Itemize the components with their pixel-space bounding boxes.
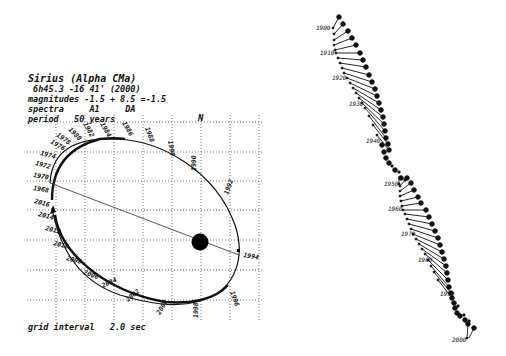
svg-text:1972: 1972 — [34, 159, 51, 171]
proper-motion-track — [332, 15, 476, 339]
svg-text:1986: 1986 — [120, 120, 135, 138]
svg-text:2000: 2000 — [452, 336, 467, 343]
svg-text:1998: 1998 — [192, 302, 200, 318]
svg-text:1990: 1990 — [190, 155, 198, 171]
line-of-apsides — [50, 183, 239, 255]
svg-text:1990: 1990 — [440, 290, 455, 297]
svg-text:2016: 2016 — [33, 197, 51, 209]
svg-text:1940: 1940 — [366, 137, 381, 144]
svg-text:1980: 1980 — [418, 256, 433, 263]
svg-text:1960: 1960 — [388, 205, 403, 212]
svg-text:1930: 1930 — [349, 100, 364, 107]
upper-arc-labels: 1968 1970 1972 1974 1976 1978 1980 1982 … — [33, 120, 260, 262]
svg-text:1974: 1974 — [39, 149, 56, 161]
orbit-diagram: N 1968 1970 1972 1974 1976 1978 1980 198… — [0, 0, 506, 356]
svg-text:1970: 1970 — [401, 230, 416, 237]
svg-text:1910: 1910 — [320, 49, 335, 56]
svg-text:2012: 2012 — [44, 224, 62, 236]
periastron-marker — [237, 249, 240, 252]
orbit-ellipse — [50, 138, 239, 304]
svg-text:1990: 1990 — [166, 140, 177, 157]
svg-text:1950: 1950 — [384, 180, 399, 187]
svg-text:1920: 1920 — [332, 74, 347, 81]
primary-star-sirius-a — [192, 234, 209, 251]
svg-text:2010: 2010 — [52, 239, 70, 251]
svg-text:2008: 2008 — [65, 254, 83, 266]
svg-text:1992: 1992 — [222, 178, 235, 196]
svg-text:1988: 1988 — [143, 126, 156, 144]
proper-motion-year-labels: 1900 1910 1920 1930 1940 1950 1960 1970 … — [316, 24, 467, 343]
svg-text:1900: 1900 — [316, 24, 331, 31]
svg-text:1984: 1984 — [98, 121, 113, 139]
svg-text:1968: 1968 — [33, 184, 50, 195]
svg-text:1970: 1970 — [33, 171, 50, 182]
north-label: N — [197, 113, 204, 123]
periastron-label: 1994 — [243, 251, 260, 262]
grid-interval-label: grid interval 2.0 sec — [28, 322, 146, 332]
